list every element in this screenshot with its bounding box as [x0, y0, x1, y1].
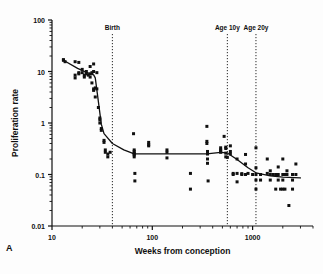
- data-point: [236, 172, 239, 175]
- x-axis-tick-label: 100: [146, 234, 158, 241]
- data-point: [244, 153, 247, 156]
- data-point: [236, 158, 239, 161]
- data-point: [74, 60, 77, 63]
- data-point: [189, 172, 192, 175]
- data-point: [205, 142, 208, 145]
- data-point: [89, 76, 92, 79]
- data-point: [224, 147, 227, 150]
- data-point-group: [62, 58, 297, 207]
- proliferation-rate-chart: 0.010.1110100101001000Weeks from concept…: [0, 0, 323, 274]
- data-point: [251, 173, 254, 176]
- data-point: [133, 179, 136, 182]
- data-point: [244, 162, 247, 165]
- data-point: [291, 179, 294, 182]
- data-point: [287, 204, 290, 207]
- data-point: [206, 158, 209, 161]
- data-point: [266, 158, 269, 161]
- data-point: [269, 169, 272, 172]
- data-point: [259, 173, 262, 176]
- data-point: [277, 179, 280, 182]
- data-point: [106, 155, 109, 158]
- y-axis-tick-label: 10: [37, 69, 45, 76]
- y-axis-title: Proliferation rate: [10, 89, 20, 157]
- data-point: [98, 122, 101, 125]
- data-point: [77, 61, 80, 64]
- data-point: [133, 172, 136, 175]
- figure-panel: 0.010.1110100101001000Weeks from concept…: [0, 0, 323, 274]
- data-point: [229, 144, 232, 147]
- data-point: [100, 129, 103, 132]
- data-point: [269, 173, 272, 176]
- data-point: [147, 144, 150, 147]
- annotation-label-age-20y: Age 20y: [243, 24, 268, 32]
- data-point: [277, 173, 280, 176]
- data-point: [97, 106, 100, 109]
- data-point: [285, 173, 288, 176]
- data-point: [254, 173, 257, 176]
- data-point: [133, 155, 136, 158]
- data-point: [98, 118, 101, 121]
- data-point: [219, 151, 222, 154]
- data-point: [281, 158, 284, 161]
- y-axis-tick-label: 100: [33, 17, 45, 24]
- data-point: [109, 151, 112, 154]
- annotation-label-age-10y: Age 10y: [215, 24, 240, 32]
- data-point: [95, 71, 98, 74]
- data-point: [291, 173, 294, 176]
- data-point: [283, 188, 286, 191]
- data-point: [206, 162, 209, 165]
- data-point: [92, 62, 95, 65]
- data-point: [103, 141, 106, 144]
- data-point: [229, 153, 232, 156]
- y-axis-tick-label: 0.01: [31, 223, 45, 230]
- data-point: [74, 74, 77, 77]
- data-point: [89, 65, 92, 68]
- data-point: [285, 169, 288, 172]
- data-point: [189, 188, 192, 191]
- x-axis-tick-label: 10: [48, 234, 56, 241]
- data-point: [90, 81, 93, 84]
- annotation-label-birth: Birth: [105, 24, 120, 31]
- data-point: [165, 151, 168, 154]
- data-point: [272, 173, 275, 176]
- x-axis-tick-label: 1000: [245, 234, 261, 241]
- data-point: [247, 172, 250, 175]
- data-point: [254, 188, 257, 191]
- data-point: [259, 179, 262, 182]
- panel-label: A: [6, 243, 13, 253]
- data-point: [281, 179, 284, 182]
- data-point: [224, 152, 227, 155]
- data-point: [240, 173, 243, 176]
- data-point: [94, 95, 97, 98]
- data-point: [266, 172, 269, 175]
- data-point: [165, 156, 168, 159]
- data-point: [81, 68, 84, 71]
- data-point: [291, 188, 294, 191]
- data-point: [254, 146, 257, 149]
- data-point: [207, 179, 210, 182]
- y-axis-tick-label: 0.1: [35, 172, 45, 179]
- x-axis-title: Weeks from conception: [135, 246, 231, 256]
- data-point: [226, 156, 229, 159]
- data-point: [95, 87, 98, 90]
- data-point: [277, 165, 280, 168]
- data-point: [223, 135, 226, 138]
- data-point: [269, 179, 272, 182]
- data-point: [274, 188, 277, 191]
- data-point: [92, 70, 95, 73]
- data-point: [254, 179, 257, 182]
- data-point: [64, 60, 67, 63]
- data-point: [83, 76, 86, 79]
- data-point: [294, 162, 297, 165]
- data-point: [294, 173, 297, 176]
- data-point: [254, 166, 257, 169]
- data-point: [74, 76, 77, 79]
- data-point: [77, 72, 80, 75]
- y-axis-tick-label: 1: [41, 120, 45, 127]
- data-point: [236, 180, 239, 183]
- data-point: [132, 132, 135, 135]
- data-point: [206, 153, 209, 156]
- data-point: [232, 173, 235, 176]
- data-point: [205, 125, 208, 128]
